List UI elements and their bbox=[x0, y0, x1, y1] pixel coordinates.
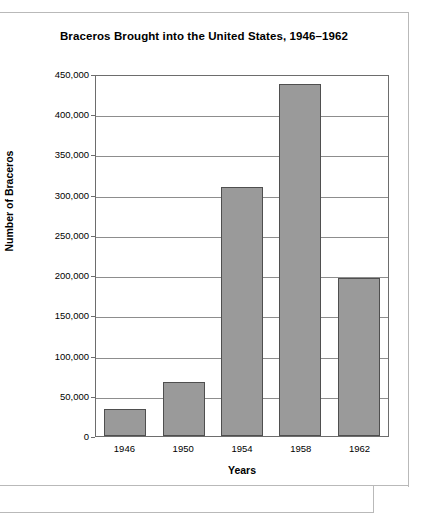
y-axis-tick-label: 200,000 bbox=[0, 271, 89, 281]
page-bottom-rule-lower bbox=[0, 512, 374, 513]
page-bottom-box-right-rule bbox=[373, 485, 374, 513]
y-axis-tick-mark bbox=[91, 437, 95, 438]
bar-series bbox=[96, 76, 388, 436]
x-axis-tick-label: 1954 bbox=[221, 443, 263, 454]
plot-area bbox=[95, 75, 389, 437]
y-axis-tick-label: 50,000 bbox=[0, 392, 89, 402]
x-axis-tick-label: 1950 bbox=[162, 443, 204, 454]
bar-1950 bbox=[163, 382, 205, 436]
y-axis-tick-label: 300,000 bbox=[0, 191, 89, 201]
y-axis-tick-label: 400,000 bbox=[0, 110, 89, 120]
y-axis-tick-label: 250,000 bbox=[0, 231, 89, 241]
bar-1946 bbox=[104, 409, 146, 436]
y-axis-tick-label: 450,000 bbox=[0, 70, 89, 80]
bar-chart-figure: Braceros Brought into the United States,… bbox=[0, 12, 408, 485]
x-axis-tick-label: 1946 bbox=[103, 443, 145, 454]
x-axis-tick-labels: 19461950195419581962 bbox=[95, 443, 389, 454]
y-axis-tick-label: 350,000 bbox=[0, 151, 89, 161]
y-axis-tick-label: 100,000 bbox=[0, 352, 89, 362]
y-axis-tick-label: 0 bbox=[0, 432, 89, 442]
chart-title: Braceros Brought into the United States,… bbox=[0, 30, 408, 42]
y-axis-tick-label: 150,000 bbox=[0, 312, 89, 322]
x-axis-title: Years bbox=[95, 464, 389, 476]
y-axis-tick-labels: 050,000100,000150,000200,000250,000300,0… bbox=[0, 75, 89, 437]
x-axis-tick-label: 1962 bbox=[339, 443, 381, 454]
x-axis-tick-label: 1958 bbox=[280, 443, 322, 454]
bar-1954 bbox=[221, 187, 263, 436]
page-right-rule bbox=[408, 12, 409, 487]
bar-1958 bbox=[279, 84, 321, 436]
bar-1962 bbox=[338, 278, 380, 436]
page-bottom-rule-upper bbox=[0, 485, 409, 486]
